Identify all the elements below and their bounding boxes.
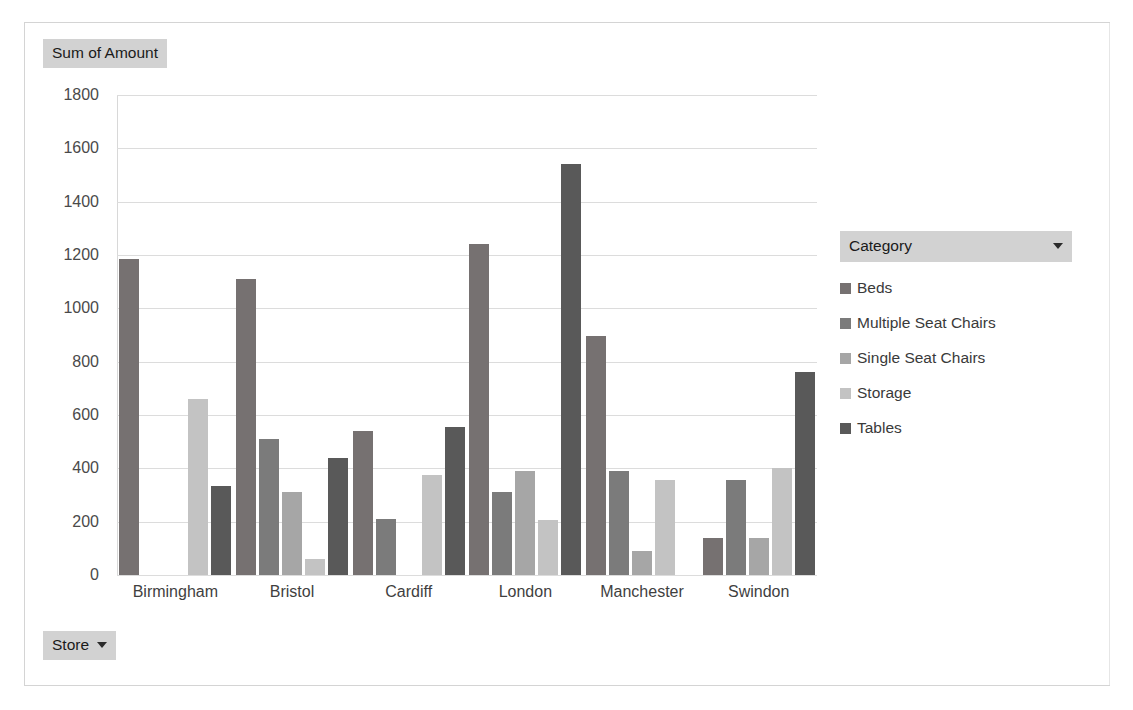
bar[interactable]: [328, 458, 348, 575]
legend-item: Single Seat Chairs: [840, 349, 1090, 367]
caret-down-icon: [1053, 243, 1063, 249]
y-axis-tick-label: 800: [31, 353, 111, 371]
bar-slot: [632, 95, 652, 575]
legend: Category BedsMultiple Seat ChairsSingle …: [840, 231, 1090, 437]
bar-slot: [422, 95, 442, 575]
bar[interactable]: [749, 538, 769, 575]
bar[interactable]: [282, 492, 302, 575]
bar-slot: [749, 95, 769, 575]
bar-slot: [445, 95, 465, 575]
bar-slot: [211, 95, 231, 575]
bar-slot: [586, 95, 606, 575]
plot-area: 020040060080010001200140016001800: [117, 95, 817, 575]
bar-slot: [492, 95, 512, 575]
x-axis-tick-label: Bristol: [234, 583, 351, 601]
bar-slot: [469, 95, 489, 575]
bar-group: [117, 95, 234, 575]
caret-down-icon: [97, 642, 107, 648]
bar[interactable]: [492, 492, 512, 575]
bar-slot: [772, 95, 792, 575]
y-axis-tick-label: 1000: [31, 299, 111, 317]
bar-slot: [119, 95, 139, 575]
bar[interactable]: [445, 427, 465, 575]
bar-slot: [726, 95, 746, 575]
bar-slot: [561, 95, 581, 575]
bar[interactable]: [561, 164, 581, 575]
bar[interactable]: [586, 336, 606, 575]
bar-group: [584, 95, 701, 575]
x-axis-tick-label: Cardiff: [350, 583, 467, 601]
x-axis-tick-label: Manchester: [584, 583, 701, 601]
bar[interactable]: [609, 471, 629, 575]
legend-swatch-icon: [840, 423, 851, 434]
value-field-label: Sum of Amount: [52, 45, 158, 61]
value-field-button[interactable]: Sum of Amount: [43, 39, 167, 68]
bar[interactable]: [703, 538, 723, 575]
bar-slot: [165, 95, 185, 575]
legend-item-label: Storage: [857, 384, 911, 402]
bar-slot: [655, 95, 675, 575]
bar[interactable]: [305, 559, 325, 575]
y-axis-tick-label: 200: [31, 513, 111, 531]
store-field-label: Store: [52, 637, 89, 653]
legend-swatch-icon: [840, 283, 851, 294]
bar[interactable]: [655, 480, 675, 575]
legend-swatch-icon: [840, 318, 851, 329]
pivot-chart-frame: Sum of Amount 02004006008001000120014001…: [24, 22, 1110, 686]
bar-slot: [515, 95, 535, 575]
bar-slot: [305, 95, 325, 575]
bar-slot: [678, 95, 698, 575]
y-axis-tick-label: 0: [31, 566, 111, 584]
x-axis-labels: BirminghamBristolCardiffLondonManchester…: [117, 583, 817, 601]
bar[interactable]: [236, 279, 256, 575]
bar[interactable]: [469, 244, 489, 575]
bar[interactable]: [726, 480, 746, 575]
legend-title: Category: [849, 237, 912, 255]
bar-slot: [328, 95, 348, 575]
bar[interactable]: [353, 431, 373, 575]
legend-item: Storage: [840, 384, 1090, 402]
legend-item: Beds: [840, 279, 1090, 297]
bar-slot: [703, 95, 723, 575]
legend-item-label: Beds: [857, 279, 892, 297]
y-axis-tick-label: 1600: [31, 139, 111, 157]
bar[interactable]: [211, 486, 231, 575]
bar-slot: [282, 95, 302, 575]
legend-item-label: Single Seat Chairs: [857, 349, 985, 367]
bar-slot: [399, 95, 419, 575]
bar-slot: [259, 95, 279, 575]
bar-group: [234, 95, 351, 575]
bar[interactable]: [119, 259, 139, 575]
bar[interactable]: [188, 399, 208, 575]
x-axis-tick-label: London: [467, 583, 584, 601]
y-axis-tick-label: 1200: [31, 246, 111, 264]
bar[interactable]: [632, 551, 652, 575]
bar[interactable]: [376, 519, 396, 575]
bar[interactable]: [538, 520, 558, 575]
legend-field-button[interactable]: Category: [840, 231, 1072, 262]
y-axis-tick-label: 1400: [31, 193, 111, 211]
bar[interactable]: [795, 372, 815, 575]
gridline: [117, 575, 817, 576]
legend-items: BedsMultiple Seat ChairsSingle Seat Chai…: [840, 279, 1090, 437]
bar[interactable]: [515, 471, 535, 575]
bar[interactable]: [259, 439, 279, 575]
x-axis-tick-label: Swindon: [700, 583, 817, 601]
bar-slot: [795, 95, 815, 575]
legend-item: Multiple Seat Chairs: [840, 314, 1090, 332]
y-axis-tick-label: 1800: [31, 86, 111, 104]
legend-swatch-icon: [840, 353, 851, 364]
bar-slot: [609, 95, 629, 575]
store-field-button[interactable]: Store: [43, 631, 116, 660]
y-axis-tick-label: 600: [31, 406, 111, 424]
legend-item: Tables: [840, 419, 1090, 437]
bar[interactable]: [772, 468, 792, 575]
y-axis-tick-label: 400: [31, 459, 111, 477]
bar-slot: [236, 95, 256, 575]
frame-edge: [1109, 23, 1110, 685]
legend-item-label: Multiple Seat Chairs: [857, 314, 996, 332]
bar[interactable]: [422, 475, 442, 575]
bar-slot: [353, 95, 373, 575]
bars-layer: [117, 95, 817, 575]
bar-slot: [538, 95, 558, 575]
